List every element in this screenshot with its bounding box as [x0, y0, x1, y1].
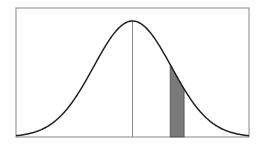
normal-distribution-chart	[0, 0, 269, 147]
